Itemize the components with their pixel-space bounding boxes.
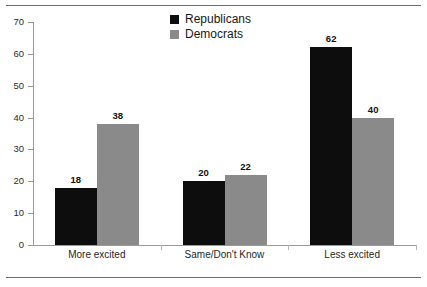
bar-value-label: 22 [240, 161, 251, 172]
legend-label-democrats: Democrats [185, 28, 243, 41]
bar-fill [183, 181, 225, 245]
bar-democrats-1: 22 [225, 175, 267, 245]
legend-item-democrats: Democrats [170, 28, 251, 41]
bar-democrats-0: 38 [97, 124, 139, 245]
chart-page: 010203040506070 183820226240 More excite… [0, 0, 427, 287]
y-tick-label-0: 0 [0, 240, 24, 249]
y-tick-70 [28, 22, 33, 23]
legend-item-republicans: Republicans [170, 13, 251, 26]
y-tick-label-60: 60 [0, 49, 24, 58]
category-label-0: More excited [33, 249, 161, 260]
y-tick-label-40: 40 [0, 113, 24, 122]
category-label-2: Less excited [288, 249, 416, 260]
legend-swatch-democrats [170, 30, 179, 39]
y-tick-60 [28, 54, 33, 55]
bar-value-label: 38 [113, 110, 124, 121]
bar-democrats-2: 40 [352, 118, 394, 245]
category-label-1: Same/Don't Know [161, 249, 289, 260]
x-tick-2 [416, 245, 417, 250]
bar-republicans-0: 18 [55, 188, 97, 245]
bar-fill [310, 47, 352, 245]
bar-value-label: 62 [326, 33, 337, 44]
y-tick-label-70: 70 [0, 17, 24, 26]
y-tick-0 [28, 245, 33, 246]
legend-swatch-republicans [170, 15, 179, 24]
y-tick-50 [28, 86, 33, 87]
x-axis-line [33, 245, 416, 246]
y-tick-label-20: 20 [0, 176, 24, 185]
legend-label-republicans: Republicans [185, 13, 251, 26]
bar-fill [352, 118, 394, 245]
chart-legend: Republicans Democrats [170, 13, 251, 43]
bar-fill [55, 188, 97, 245]
bar-republicans-2: 62 [310, 47, 352, 245]
bar-value-label: 18 [71, 174, 82, 185]
bar-value-label: 20 [198, 167, 209, 178]
y-tick-10 [28, 213, 33, 214]
y-tick-30 [28, 149, 33, 150]
bar-fill [97, 124, 139, 245]
bar-value-label: 40 [368, 104, 379, 115]
bar-fill [225, 175, 267, 245]
bar-chart-plot-area: 010203040506070 183820226240 More excite… [0, 0, 427, 287]
y-tick-label-50: 50 [0, 81, 24, 90]
y-tick-label-10: 10 [0, 208, 24, 217]
y-tick-label-30: 30 [0, 144, 24, 153]
bar-republicans-1: 20 [183, 181, 225, 245]
y-tick-20 [28, 181, 33, 182]
y-axis-line [33, 22, 34, 245]
y-tick-40 [28, 118, 33, 119]
